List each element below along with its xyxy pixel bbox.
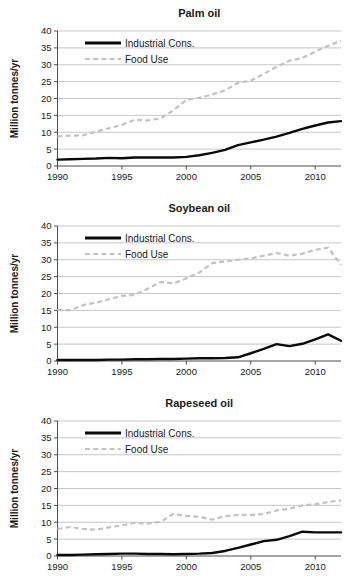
y-tick-label: 30 <box>41 59 52 70</box>
series-line-industrial-cons <box>58 121 342 159</box>
series-line-food-use <box>58 500 342 529</box>
y-tick-label: 15 <box>41 305 52 316</box>
y-tick-label: 25 <box>41 271 52 282</box>
y-tick-label: 10 <box>41 517 52 528</box>
x-tick-label: 2010 <box>305 171 326 182</box>
y-tick-label: 15 <box>41 110 52 121</box>
legend-label-industrial-cons: Industrial Cons. <box>125 38 194 49</box>
x-tick-label: 1990 <box>47 561 68 572</box>
multi-panel-line-chart-figure: Palm oil05101520253035401990199520002005… <box>0 0 347 585</box>
y-tick-label: 25 <box>41 76 52 87</box>
x-tick-label: 2000 <box>176 561 197 572</box>
y-tick-label: 35 <box>41 42 52 53</box>
x-tick-label: 2010 <box>305 561 326 572</box>
legend-label-food-use: Food Use <box>125 54 169 65</box>
y-tick-label: 35 <box>41 237 52 248</box>
chart-title: Palm oil <box>178 7 220 19</box>
y-tick-label: 0 <box>46 160 51 171</box>
series-line-industrial-cons <box>58 334 342 360</box>
chart-panel-palm-oil: Palm oil05101520253035401990199520002005… <box>0 0 347 195</box>
chart-title: Soybean oil <box>168 202 230 214</box>
series-line-food-use <box>58 41 342 137</box>
legend-label-industrial-cons: Industrial Cons. <box>125 233 194 244</box>
chart-svg: Soybean oil05101520253035401990199520002… <box>0 195 347 390</box>
x-tick-label: 1995 <box>111 366 132 377</box>
x-tick-label: 2010 <box>305 366 326 377</box>
y-tick-label: 35 <box>41 432 52 443</box>
y-tick-label: 5 <box>46 534 51 545</box>
y-tick-label: 20 <box>41 288 52 299</box>
y-axis-label: Million tonnes/yr <box>9 449 20 529</box>
y-axis-label: Million tonnes/yr <box>9 59 20 139</box>
x-tick-label: 2000 <box>176 171 197 182</box>
y-tick-label: 40 <box>41 220 52 231</box>
x-tick-label: 2005 <box>240 561 261 572</box>
y-tick-label: 30 <box>41 449 52 460</box>
x-tick-label: 1995 <box>111 171 132 182</box>
x-tick-label: 1995 <box>111 561 132 572</box>
y-tick-label: 5 <box>46 339 51 350</box>
chart-panel-soybean-oil: Soybean oil05101520253035401990199520002… <box>0 195 347 390</box>
chart-svg: Palm oil05101520253035401990199520002005… <box>0 0 347 195</box>
x-tick-label: 2005 <box>240 171 261 182</box>
y-tick-label: 5 <box>46 144 51 155</box>
x-tick-label: 2000 <box>176 366 197 377</box>
legend-label-food-use: Food Use <box>125 249 169 260</box>
y-tick-label: 15 <box>41 500 52 511</box>
y-tick-label: 20 <box>41 93 52 104</box>
y-tick-label: 40 <box>41 25 52 36</box>
y-tick-label: 40 <box>41 415 52 426</box>
x-tick-label: 2005 <box>240 366 261 377</box>
y-tick-label: 10 <box>41 322 52 333</box>
y-tick-label: 30 <box>41 254 52 265</box>
x-tick-label: 1990 <box>47 366 68 377</box>
y-tick-label: 0 <box>46 550 51 561</box>
legend-label-food-use: Food Use <box>125 444 169 455</box>
chart-svg: Rapeseed oil0510152025303540199019952000… <box>0 390 347 585</box>
y-tick-label: 20 <box>41 483 52 494</box>
y-tick-label: 10 <box>41 127 52 138</box>
legend-label-industrial-cons: Industrial Cons. <box>125 428 194 439</box>
y-tick-label: 25 <box>41 466 52 477</box>
y-tick-label: 0 <box>46 355 51 366</box>
y-axis-label: Million tonnes/yr <box>9 254 20 334</box>
series-line-industrial-cons <box>58 532 342 555</box>
series-line-food-use <box>58 248 342 310</box>
chart-panel-rapeseed-oil: Rapeseed oil0510152025303540199019952000… <box>0 390 347 585</box>
chart-title: Rapeseed oil <box>165 397 233 409</box>
x-tick-label: 1990 <box>47 171 68 182</box>
